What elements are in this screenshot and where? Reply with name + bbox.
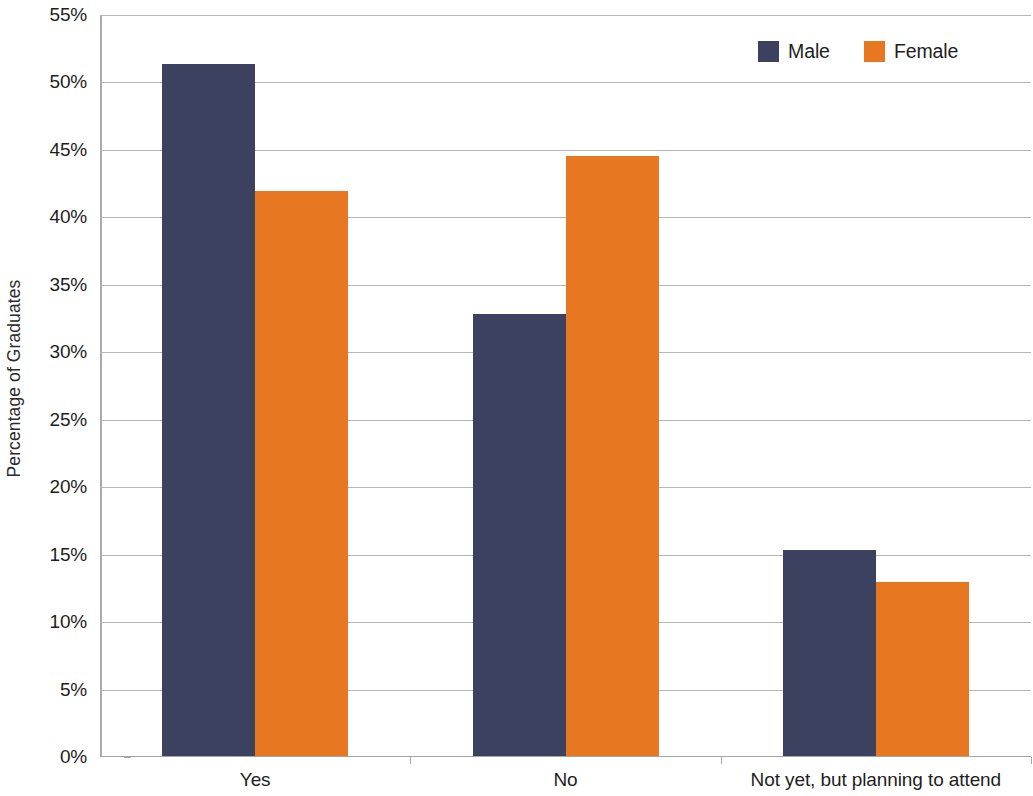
bar-chart: Percentage of Graduates 0%5%10%15%20%25%… (0, 0, 1033, 796)
bar-male-1 (473, 314, 566, 757)
x-tick-label: No (553, 769, 577, 791)
legend-item-female: Female (864, 40, 958, 63)
bar-male-0 (162, 64, 255, 756)
x-tick-mark (721, 757, 722, 764)
x-tick-label: Not yet, but planning to attend (751, 769, 1001, 791)
y-tick-label: 5% (60, 679, 87, 701)
y-axis-line (100, 15, 102, 757)
y-tick-label: 50% (50, 71, 87, 93)
bar-male-2 (783, 550, 876, 756)
legend-swatch-icon (758, 41, 779, 62)
x-axis-ticks: YesNoNot yet, but planning to attend (100, 757, 1031, 796)
x-tick-mark (1031, 757, 1032, 764)
legend-swatch-icon (864, 41, 885, 62)
legend-label: Female (894, 40, 958, 63)
x-tick-label: Yes (240, 769, 271, 791)
y-tick-label: 40% (50, 206, 87, 228)
legend-item-male: Male (758, 40, 830, 63)
legend-label: Male (788, 40, 830, 63)
y-axis-title-text: Percentage of Graduates (5, 280, 26, 478)
y-tick-label: 0% (60, 746, 87, 768)
bar-female-0 (255, 191, 348, 756)
plot-area (100, 15, 1031, 757)
y-tick-label: 55% (50, 4, 87, 26)
y-tick-label: 15% (50, 544, 87, 566)
bar-female-1 (566, 156, 659, 756)
x-tick-mark (410, 757, 411, 764)
y-tick-label: 45% (50, 139, 87, 161)
y-tick-label: 25% (50, 409, 87, 431)
y-tick-label: 20% (50, 476, 87, 498)
chart-legend: MaleFemale (758, 40, 958, 63)
y-tick-label: 10% (50, 611, 87, 633)
y-tick-label: 35% (50, 274, 87, 296)
gridline (100, 15, 1031, 16)
y-axis-ticks: 0%5%10%15%20%25%30%35%40%45%50%55% (30, 0, 93, 796)
bar-female-2 (876, 582, 969, 756)
y-tick-label: 30% (50, 341, 87, 363)
y-axis-title: Percentage of Graduates (0, 0, 30, 757)
